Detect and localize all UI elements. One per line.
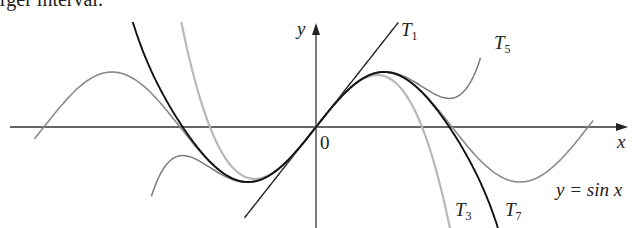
t5-label-sub: 5 [505, 42, 511, 56]
t3-label: T3 [455, 200, 472, 222]
plot-area [0, 0, 635, 228]
t1-label: T1 [401, 20, 418, 42]
x-axis-arrow-icon [616, 123, 628, 131]
y-axis-label: y [297, 19, 305, 38]
t7-label-sub: 7 [516, 209, 522, 223]
t5-label-letter: T [494, 32, 505, 53]
y-axis-arrow-icon [312, 23, 320, 35]
t3-label-sub: 3 [466, 209, 472, 223]
sin-curve-label: y = sin x [556, 180, 622, 199]
t7-label: T7 [505, 200, 522, 222]
t1-label-sub: 1 [412, 29, 418, 43]
origin-label: 0 [320, 133, 330, 152]
taylor-polynomials-figure: rger interval. y x 0 T1 T5 T3 T7 y = sin… [0, 0, 635, 228]
t7-label-letter: T [505, 199, 516, 220]
t1-label-letter: T [401, 19, 412, 40]
t3-label-letter: T [455, 199, 466, 220]
x-axis-label: x [617, 132, 625, 151]
t5-label: T5 [494, 33, 511, 55]
